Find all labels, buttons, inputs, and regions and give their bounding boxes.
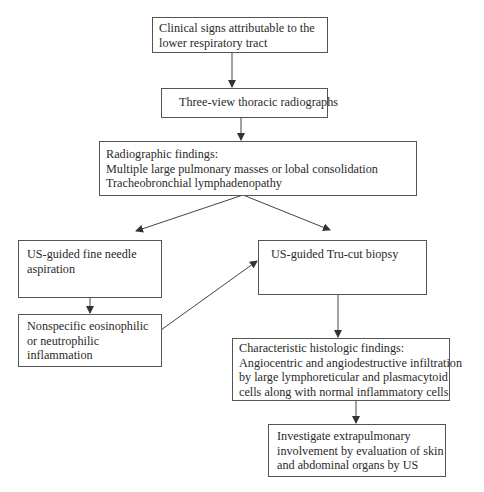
node-clinical-signs: Clinical signs attributable to the lower… bbox=[152, 17, 328, 53]
node-text: Multiple large pulmonary masses or lobal… bbox=[106, 162, 410, 177]
node-text: or neutrophilic bbox=[27, 334, 153, 349]
node-text: Angiocentric and angiodestructive infilt… bbox=[239, 356, 443, 371]
node-text: US-guided fine needle bbox=[27, 247, 153, 262]
arrow-nonspecific-to-trucut bbox=[161, 261, 257, 330]
node-fine-needle-aspiration: US-guided fine needle aspiration bbox=[18, 240, 162, 298]
node-radiographic-findings: Radiographic findings: Multiple large pu… bbox=[99, 141, 417, 196]
node-text: involvement by evaluation of skin bbox=[277, 444, 437, 459]
node-text: and abdominal organs by US bbox=[277, 458, 437, 473]
node-text: Radiographic findings: bbox=[106, 147, 410, 162]
node-text: cells along with normal inflammatory cel… bbox=[239, 385, 443, 400]
node-investigate-extrapulmonary: Investigate extrapulmonary involvement b… bbox=[268, 424, 446, 477]
node-text: US-guided Tru-cut biopsy bbox=[271, 247, 414, 262]
node-nonspecific-inflammation: Nonspecific eosinophilic or neutrophilic… bbox=[18, 314, 162, 367]
node-text: aspiration bbox=[27, 262, 153, 277]
arrow-findings-to-trucut bbox=[243, 195, 330, 230]
node-text: by large lymphoreticular and plasmacytoi… bbox=[239, 370, 443, 385]
node-text: inflammation bbox=[27, 348, 153, 363]
node-histologic-findings: Characteristic histologic findings: Angi… bbox=[232, 338, 450, 401]
node-text: Investigate extrapulmonary bbox=[277, 429, 437, 444]
node-text: Clinical signs attributable to the bbox=[159, 21, 321, 36]
arrow-findings-to-fna bbox=[136, 195, 243, 231]
node-trucut-biopsy: US-guided Tru-cut biopsy bbox=[258, 240, 427, 295]
node-text: Three-view thoracic radiographs bbox=[179, 95, 327, 110]
node-text: lower respiratory tract bbox=[159, 36, 321, 51]
node-thoracic-radiographs: Three-view thoracic radiographs bbox=[161, 88, 328, 118]
node-text: Characteristic histologic findings: bbox=[239, 341, 443, 356]
node-text: Nonspecific eosinophilic bbox=[27, 319, 153, 334]
node-text: Tracheobronchial lymphadenopathy bbox=[106, 176, 410, 191]
